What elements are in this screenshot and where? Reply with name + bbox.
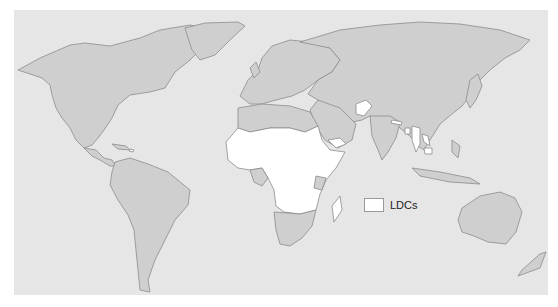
cambodia: [424, 148, 432, 154]
bangladesh: [405, 128, 410, 134]
haiti: [129, 149, 134, 152]
legend: LDCs: [364, 198, 418, 212]
legend-swatch-ldc: [364, 198, 384, 212]
world-map: [0, 0, 558, 307]
legend-label-ldc: LDCs: [390, 199, 418, 211]
